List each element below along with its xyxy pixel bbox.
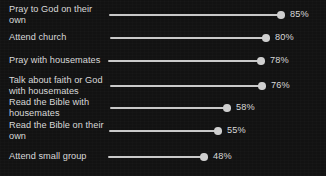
value-stem — [110, 85, 262, 87]
value-label: 80% — [275, 33, 294, 42]
category-label: Attend small group — [9, 151, 107, 162]
value-label: 76% — [271, 81, 290, 90]
value-marker-dot — [223, 104, 231, 112]
value-marker-dot — [262, 34, 270, 42]
value-stem — [109, 130, 218, 132]
category-label: Read the Bible on their own — [9, 120, 107, 143]
value-stem — [110, 107, 227, 109]
value-marker-dot — [258, 82, 266, 90]
value-label: 78% — [270, 56, 289, 65]
category-label: Attend church — [9, 32, 107, 43]
value-marker-dot — [257, 57, 265, 65]
value-stem — [110, 37, 266, 39]
category-label: Pray to God on their own — [9, 4, 107, 27]
category-label: Talk about faith or God with housemates — [9, 75, 107, 98]
value-label: 85% — [290, 10, 309, 19]
category-label: Pray with housemates — [9, 55, 107, 66]
value-stem — [108, 60, 261, 62]
value-stem — [109, 14, 281, 16]
value-marker-dot — [214, 127, 222, 135]
value-label: 48% — [213, 152, 232, 161]
value-label: 55% — [227, 126, 246, 135]
category-label: Read the Bible with housemates — [9, 97, 107, 120]
lollipop-chart: Pray to God on their own 85% Attend chur… — [0, 0, 326, 176]
value-label: 58% — [236, 103, 255, 112]
value-stem — [108, 156, 204, 158]
value-marker-dot — [277, 11, 285, 19]
value-marker-dot — [200, 153, 208, 161]
